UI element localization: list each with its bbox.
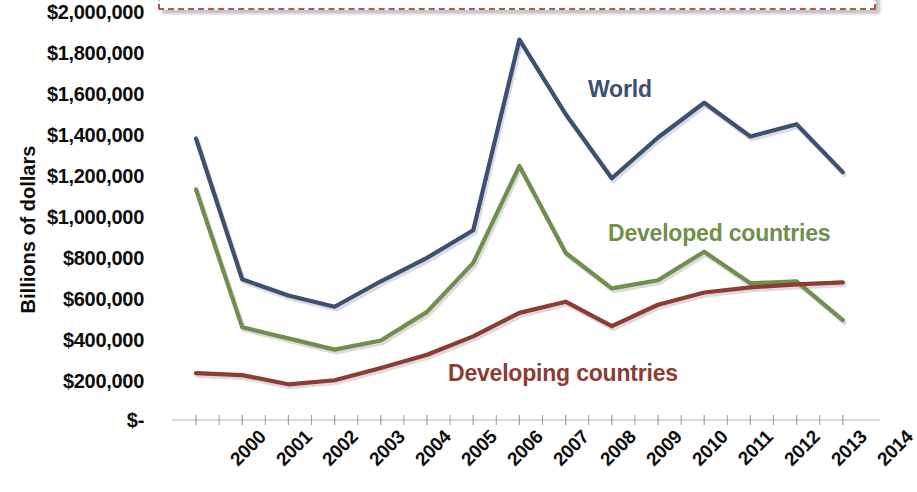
series-label-developing-countries: Developing countries <box>448 360 678 387</box>
y-axis: Billions of dollars $2,000,000 $1,800,00… <box>0 0 152 430</box>
series-line-developed-countries <box>196 166 843 350</box>
series-label-developed-countries: Developed countries <box>608 220 830 247</box>
x-tick-label: 2000 <box>226 426 271 471</box>
x-tick-label: 2010 <box>688 426 733 471</box>
x-tick-label: 2003 <box>365 426 410 471</box>
x-tick-label: 2004 <box>411 426 456 471</box>
y-tick-label: $200,000 <box>63 370 144 393</box>
x-axis: 2000200120022003200420052006200720082009… <box>160 420 886 492</box>
y-tick-label: $1,200,000 <box>47 165 144 188</box>
y-tick-label: $1,600,000 <box>47 83 144 106</box>
x-tick-label: 2009 <box>642 426 687 471</box>
x-tick-label: 2001 <box>272 426 317 471</box>
x-tick-label: 2008 <box>596 426 641 471</box>
x-tick-label: 2011 <box>734 426 778 470</box>
x-tick-label: 2012 <box>780 426 825 471</box>
y-tick-label: $2,000,000 <box>47 1 144 24</box>
x-tick-label: 2013 <box>827 426 872 471</box>
y-tick-label: $400,000 <box>63 329 144 352</box>
series-label-world: World <box>588 76 652 103</box>
y-tick-label: $- <box>127 409 144 432</box>
y-tick-label: $800,000 <box>63 247 144 270</box>
y-tick-label: $1,400,000 <box>47 124 144 147</box>
x-tick-label: 2014 <box>873 426 917 471</box>
x-tick-label: 2006 <box>503 426 548 471</box>
y-tick-label: $600,000 <box>63 288 144 311</box>
y-axis-title: Billions of dollars <box>17 110 40 350</box>
x-tick-label: 2007 <box>549 426 594 471</box>
y-tick-label: $1,000,000 <box>47 206 144 229</box>
y-tick-label: $1,800,000 <box>47 42 144 65</box>
x-tick-label: 2005 <box>457 426 502 471</box>
x-tick-label: 2002 <box>318 426 363 471</box>
series-lines <box>196 40 843 385</box>
series-shadows <box>198 42 845 387</box>
